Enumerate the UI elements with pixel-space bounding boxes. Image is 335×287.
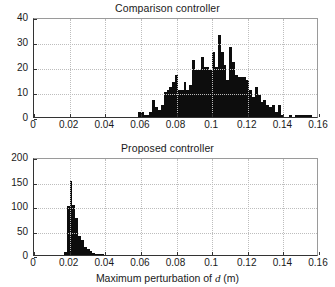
x-axis-tick-label: 0.12 [237, 258, 256, 268]
x-axis-tick-label: 0.16 [308, 120, 327, 130]
x-axis-tick [105, 252, 106, 255]
x-axis-tick-label: 0.12 [237, 120, 256, 130]
plot-area-proposed [33, 158, 318, 256]
gridline-vertical [70, 19, 71, 117]
y-axis-tick-label: 0 [22, 251, 28, 261]
gridline-vertical [177, 159, 178, 255]
x-axis-caption-suffix: (m) [220, 272, 239, 284]
gridline-vertical [105, 159, 106, 255]
histogram-bars-comparison [34, 19, 317, 117]
y-axis-tick [34, 159, 37, 160]
y-axis-tick-label: 0 [22, 113, 28, 123]
x-axis-tick-label: 0.04 [95, 120, 114, 130]
gridline-horizontal [34, 44, 317, 45]
x-axis-tick [248, 114, 249, 117]
gridline-vertical [105, 19, 106, 117]
x-axis-tick-label: 0.06 [130, 120, 149, 130]
histogram-bar [101, 254, 104, 255]
x-axis-caption-prefix: Maximum perturbation of [96, 272, 215, 284]
x-axis-tick-label: 0.04 [95, 258, 114, 268]
y-axis-tick [34, 69, 37, 70]
y-axis-tick [34, 233, 37, 234]
x-axis-caption: Maximum perturbation of d (m) [0, 272, 335, 284]
gridline-horizontal [34, 69, 317, 70]
subplot-title-proposed: Proposed controller [0, 142, 335, 154]
y-axis-tick-label: 150 [11, 178, 28, 188]
gridline-vertical [212, 19, 213, 117]
gridline-vertical [283, 159, 284, 255]
x-axis-tick-label: 0 [30, 258, 36, 268]
y-axis-tick-label: 20 [17, 63, 28, 73]
histogram-bar [309, 115, 312, 118]
gridline-vertical [141, 159, 142, 255]
subplot-proposed-controller: Proposed controller 050100150200 00.020.… [0, 140, 335, 287]
x-axis-tick-label: 0.1 [204, 258, 218, 268]
y-axis-tick-label: 100 [11, 202, 28, 212]
gridline-vertical [70, 159, 71, 255]
subplot-title-comparison: Comparison controller [0, 2, 335, 14]
x-axis-tick [70, 114, 71, 117]
x-axis-tick [70, 252, 71, 255]
y-axis-tick [34, 94, 37, 95]
x-axis-tick [177, 252, 178, 255]
y-axis-tick [34, 184, 37, 185]
y-axis-tick-label: 40 [17, 13, 28, 23]
x-axis-tick-label: 0.14 [273, 120, 292, 130]
x-axis-tick-label: 0.08 [166, 258, 185, 268]
x-axis-tick [34, 252, 35, 255]
x-axis-tick-label: 0.1 [204, 120, 218, 130]
plot-area-comparison [33, 18, 318, 118]
x-axis-tick [212, 114, 213, 117]
x-axis-tick [212, 252, 213, 255]
x-axis-tick [177, 114, 178, 117]
y-axis-tick [34, 19, 37, 20]
gridline-vertical [248, 19, 249, 117]
x-axis-tick-label: 0.06 [130, 258, 149, 268]
y-axis-tick [34, 208, 37, 209]
gridline-vertical [141, 19, 142, 117]
figure-histogram-pair: Comparison controller 010203040 00.020.0… [0, 0, 335, 287]
y-axis-tick-label: 30 [17, 38, 28, 48]
x-axis-tick [319, 114, 320, 117]
x-axis-tick-label: 0.02 [59, 258, 78, 268]
histogram-bar [289, 115, 292, 118]
x-axis-tick [141, 252, 142, 255]
y-axis-tick-label: 200 [11, 153, 28, 163]
x-axis-tick [319, 252, 320, 255]
x-axis-tick [283, 252, 284, 255]
y-axis-tick-label: 50 [17, 227, 28, 237]
x-axis-tick [34, 114, 35, 117]
gridline-vertical [177, 19, 178, 117]
x-axis-tick-label: 0.14 [273, 258, 292, 268]
gridline-vertical [283, 19, 284, 117]
gridline-horizontal [34, 208, 317, 209]
x-axis-tick [248, 252, 249, 255]
y-axis-tick-label: 10 [17, 88, 28, 98]
gridline-vertical [248, 159, 249, 255]
x-axis-tick-label: 0.02 [59, 120, 78, 130]
x-axis-tick-label: 0.16 [308, 258, 327, 268]
x-axis-tick [141, 114, 142, 117]
gridline-vertical [212, 159, 213, 255]
subplot-comparison-controller: Comparison controller 010203040 00.020.0… [0, 0, 335, 140]
gridline-horizontal [34, 184, 317, 185]
x-axis-tick [283, 114, 284, 117]
x-axis-tick [105, 114, 106, 117]
x-axis-tick-label: 0 [30, 120, 36, 130]
x-axis-tick-label: 0.08 [166, 120, 185, 130]
y-axis-tick [34, 44, 37, 45]
gridline-horizontal [34, 94, 317, 95]
histogram-bars-proposed [34, 159, 317, 255]
gridline-horizontal [34, 233, 317, 234]
